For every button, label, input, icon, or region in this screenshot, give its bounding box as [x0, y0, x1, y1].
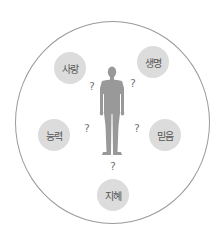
node-label: 지혜 [105, 188, 122, 203]
node-faith: 믿음 [149, 119, 181, 151]
node-ability: 능력 [38, 119, 70, 151]
question-mark-wisdom: ? [110, 161, 116, 172]
node-label: 생명 [145, 55, 162, 70]
node-label: 사랑 [62, 61, 79, 76]
person-silhouette-icon [97, 66, 127, 158]
node-label: 능력 [46, 128, 63, 143]
question-mark-ability: ? [84, 123, 90, 134]
node-life: 생명 [137, 46, 169, 78]
question-mark-faith: ? [134, 123, 140, 134]
node-wisdom: 지혜 [97, 179, 129, 211]
question-mark-life: ? [130, 78, 136, 89]
node-love: 사랑 [54, 52, 86, 84]
question-mark-love: ? [89, 81, 95, 92]
node-label: 믿음 [157, 128, 174, 143]
